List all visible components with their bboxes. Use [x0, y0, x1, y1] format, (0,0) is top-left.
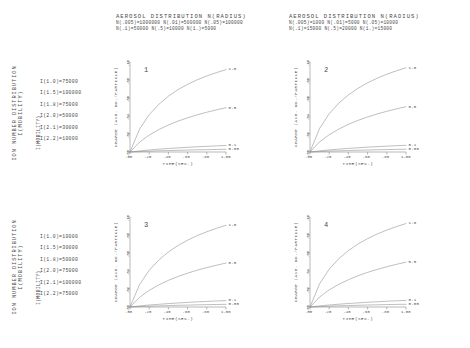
panel-3-legend: I(1.0)=10000 I(1.5)=30000 I(1.8)=50000 I…: [40, 231, 81, 299]
mobility-text: I(MOBILITY): [36, 115, 41, 150]
x-tick-label: 1.00: [221, 155, 231, 159]
x-tick-label: 1.00: [401, 310, 411, 314]
y-tick-label: .08: [126, 233, 130, 240]
outer-y-axis-label-line2: I(MOBILITY): [18, 58, 24, 168]
legend-item: I(1.0)=75000: [40, 76, 81, 87]
y-tick-label: .04: [306, 269, 310, 276]
y-tick-label: .02: [126, 287, 130, 294]
x-tick-label: .20: [324, 155, 331, 159]
plot-panel-2: 2CHARGE (AVG. NO./PARTICLE)TIME(SEC.).00…: [288, 58, 432, 166]
y-tick-label: .10: [306, 215, 310, 222]
curve-label: 0.5: [409, 105, 417, 109]
y-tick-label: .04: [126, 269, 130, 276]
curve-label: 0.05: [229, 302, 240, 306]
figure-root: ION NUMBER DISTRIBUTION I(MOBILITY) ION …: [0, 0, 470, 348]
mobility-text: I(MOBILITY): [36, 270, 41, 305]
y-tick-label: .02: [126, 132, 130, 139]
y-tick-label: .08: [126, 78, 130, 85]
panel-2-header: AEROSOL DISTRIBUTION N(RADIUS) N(.005)=1…: [289, 14, 420, 33]
x-tick-label: .20: [324, 310, 331, 314]
x-axis-label: TIME(SEC.): [130, 316, 226, 321]
plot-panel-1: 1CHARGE (AVG. NO./PARTICLE)TIME(SEC.).00…: [108, 58, 252, 166]
x-tick-label: 1.00: [401, 155, 411, 159]
y-tick-label: .10: [126, 215, 130, 222]
curve-label: 0.05: [409, 302, 420, 306]
x-tick-label: .00: [305, 155, 312, 159]
mobility-label-row1: I(MOBILITY): [36, 115, 41, 150]
y-axis-label: CHARGE (AVG. NO./PARTICLE): [113, 217, 118, 307]
y-tick-label: .08: [306, 78, 310, 85]
x-tick-label: .60: [183, 310, 190, 314]
panel-1-header: AEROSOL DISTRIBUTION N(RADIUS) N(.005)=1…: [116, 14, 247, 33]
x-tick-label: .80: [382, 155, 389, 159]
curve-label: 1.0: [409, 221, 417, 225]
panel-number: 3: [144, 221, 148, 229]
curve-label: 1.0: [229, 67, 237, 71]
y-tick-label: .02: [306, 287, 310, 294]
y-axis-label: CHARGE (AVG. NO./PARTICLE): [113, 62, 118, 152]
panel-number: 2: [324, 66, 328, 74]
outer-y-axis-label-top: ION NUMBER DISTRIBUTION I(MOBILITY): [12, 58, 24, 168]
legend-item: I(1.5)=30000: [40, 242, 81, 253]
x-tick-label: .40: [163, 155, 170, 159]
y-axis-label: CHARGE (AVG. NO./PARTICLE): [293, 62, 298, 152]
y-tick-label: .06: [126, 96, 130, 103]
x-axis-label: TIME(SEC.): [130, 161, 226, 166]
panel-1-header-line2: N(.1)=50000 N(.5)=10000 N(1.)=5000: [116, 26, 247, 32]
y-tick-label: .04: [126, 114, 130, 121]
panel-number: 4: [324, 221, 328, 229]
y-tick-label: .06: [126, 251, 130, 258]
panel-number: 1: [144, 66, 148, 74]
legend-item: I(2.2)=75000: [40, 288, 81, 299]
curve-label: 0.5: [229, 106, 237, 110]
x-tick-label: .80: [382, 310, 389, 314]
legend-item: I(2.0)=50000: [40, 110, 81, 121]
curve-label: 1.0: [229, 223, 237, 227]
x-tick-label: .80: [202, 155, 209, 159]
x-tick-label: 1.00: [221, 310, 231, 314]
legend-item: I(1.8)=75000: [40, 99, 81, 110]
legend-item: I(2.2)=10000: [40, 133, 81, 144]
y-tick-label: .04: [306, 114, 310, 121]
x-tick-label: .00: [125, 155, 132, 159]
curve-label: 0.5: [229, 261, 237, 265]
x-tick-label: .20: [144, 155, 151, 159]
curve-label: 0.05: [229, 147, 240, 151]
x-tick-label: .60: [183, 155, 190, 159]
x-tick-label: .40: [163, 310, 170, 314]
y-tick-label: .06: [306, 96, 310, 103]
plot-panel-3: 3CHARGE (AVG. NO./PARTICLE)TIME(SEC.).00…: [108, 213, 252, 321]
x-axis-label: TIME(SEC.): [310, 316, 406, 321]
legend-item: I(2.1)=30000: [40, 122, 81, 133]
outer-y-axis-label-bottom: ION NUMBER DISTRIBUTION I(MOBILITY): [12, 212, 24, 322]
y-tick-label: .10: [126, 60, 130, 67]
legend-item: I(1.5)=100000: [40, 87, 81, 98]
legend-item: I(2.0)=75000: [40, 265, 81, 276]
y-tick-label: .08: [306, 233, 310, 240]
panel-1-legend: I(1.0)=75000 I(1.5)=100000 I(1.8)=75000 …: [40, 76, 81, 144]
outer-y-axis-label-line2-b: I(MOBILITY): [18, 212, 24, 322]
legend-item: I(1.8)=50000: [40, 254, 81, 265]
x-tick-label: .00: [125, 310, 132, 314]
x-tick-label: .40: [343, 155, 350, 159]
legend-item: I(2.1)=100000: [40, 277, 81, 288]
legend-item: I(1.0)=10000: [40, 231, 81, 242]
panel-2-header-line2: N(.1)=15000 N(.5)=20000 N(1.)=15000: [289, 26, 420, 32]
x-tick-label: .80: [202, 310, 209, 314]
x-tick-label: .00: [305, 310, 312, 314]
y-axis-label: CHARGE (AVG. NO./PARTICLE): [293, 217, 298, 307]
mobility-label-row2: I(MOBILITY): [36, 270, 41, 305]
y-tick-label: .02: [306, 132, 310, 139]
x-tick-label: .40: [343, 310, 350, 314]
x-tick-label: .60: [363, 310, 370, 314]
y-tick-label: .10: [306, 60, 310, 67]
curve-label: 1.0: [409, 66, 417, 70]
curve-label: 0.05: [409, 147, 420, 151]
y-tick-label: .06: [306, 251, 310, 258]
x-axis-label: TIME(SEC.): [310, 161, 406, 166]
x-tick-label: .20: [144, 310, 151, 314]
plot-panel-4: 4CHARGE (AVG. NO./PARTICLE)TIME(SEC.).00…: [288, 213, 432, 321]
x-tick-label: .60: [363, 155, 370, 159]
curve-label: 0.5: [409, 260, 417, 264]
